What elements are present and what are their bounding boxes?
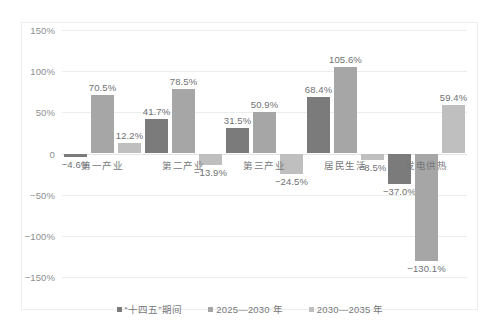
legend-label: “十四五”期间 bbox=[125, 302, 183, 316]
x-axis-category-label: 第三产业 bbox=[225, 158, 305, 172]
y-axis-tick-label: −150% bbox=[25, 272, 55, 283]
bar-value-label: 78.5% bbox=[152, 76, 216, 87]
bar[interactable] bbox=[253, 112, 276, 154]
bar[interactable] bbox=[91, 95, 114, 153]
y-axis-tick-label: 150% bbox=[30, 25, 55, 36]
bar[interactable] bbox=[442, 105, 465, 154]
x-axis-category-label: 第一产业 bbox=[63, 158, 143, 172]
legend-item[interactable]: 2025—2030 年 bbox=[208, 302, 283, 316]
bar-group: 31.5%50.9%−24.5%第三产业 bbox=[224, 30, 305, 277]
y-axis-tick-label: −100% bbox=[25, 230, 55, 241]
legend-swatch-icon bbox=[117, 307, 122, 312]
plot-area: 150%100%50%0−50%−100%−150% −4.6%70.5%12.… bbox=[62, 30, 467, 277]
bar[interactable] bbox=[118, 143, 141, 153]
y-axis-tick-label: −50% bbox=[30, 189, 55, 200]
x-axis-category-label: 居民生活 bbox=[306, 158, 386, 172]
y-axis-tick-label: 50% bbox=[36, 107, 55, 118]
bar[interactable] bbox=[172, 89, 195, 154]
x-axis-category-label: 第二产业 bbox=[144, 158, 224, 172]
y-axis-tick-label: 100% bbox=[30, 66, 55, 77]
bar-value-label: 59.4% bbox=[422, 92, 486, 103]
chart-container: 150%100%50%0−50%−100%−150% −4.6%70.5%12.… bbox=[0, 0, 500, 330]
bar-value-label: 70.5% bbox=[71, 82, 135, 93]
legend-swatch-icon bbox=[309, 307, 314, 312]
legend-item[interactable]: “十四五”期间 bbox=[117, 302, 183, 316]
bar[interactable] bbox=[226, 128, 249, 154]
bar-value-label: 105.6% bbox=[314, 54, 378, 65]
legend-item[interactable]: 2030—2035 年 bbox=[309, 302, 384, 316]
bar-group: −37.0%−130.1%59.4%发电供热 bbox=[386, 30, 467, 277]
gridline bbox=[62, 277, 467, 278]
bar-groups: −4.6%70.5%12.2%第一产业41.7%78.5%−13.9%第二产业3… bbox=[62, 30, 467, 277]
bar-value-label: −130.1% bbox=[395, 263, 459, 274]
bar-group: 68.4%105.6%−8.5%居民生活 bbox=[305, 30, 386, 277]
legend-label: 2030—2035 年 bbox=[317, 302, 384, 316]
bar-group: −4.6%70.5%12.2%第一产业 bbox=[62, 30, 143, 277]
bar[interactable] bbox=[145, 119, 168, 153]
y-axis-tick-label: 0 bbox=[50, 148, 55, 159]
bar-value-label: 50.9% bbox=[233, 99, 297, 110]
x-axis-category-label: 发电供热 bbox=[387, 158, 467, 172]
bar[interactable] bbox=[307, 97, 330, 153]
bar-group: 41.7%78.5%−13.9%第二产业 bbox=[143, 30, 224, 277]
legend-swatch-icon bbox=[208, 307, 213, 312]
legend-label: 2025—2030 年 bbox=[216, 302, 283, 316]
bar[interactable] bbox=[334, 67, 357, 154]
chart-legend: “十四五”期间2025—2030 年2030—2035 年 bbox=[0, 302, 500, 316]
